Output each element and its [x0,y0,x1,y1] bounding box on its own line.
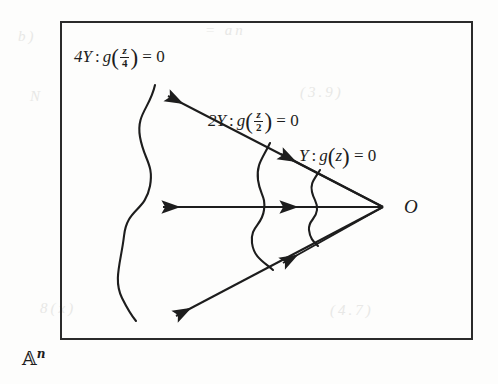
label-2y-fraction: z2 [254,109,264,133]
label-2y-function: g [237,111,246,130]
label-2y-close-paren: ) [264,109,272,134]
label-4y-function: g [103,47,112,66]
label-ambient-space: 𝔸n [22,347,45,369]
label-4y-denominator: 4 [120,57,130,70]
label-curve-4y: 4Y:g(z4) = 0 [74,46,165,70]
label-2y-variety: Y [217,111,226,130]
label-4y-fraction: z4 [120,45,130,69]
label-2y-equals: = 0 [276,111,298,130]
label-4y-close-paren: ) [130,45,138,70]
label-y-function: g [319,146,328,165]
label-curve-y: Y:g(z) = 0 [299,146,376,169]
label-y-colon: : [308,146,319,165]
label-y-argument: z [335,146,342,165]
ambient-space-symbol: 𝔸 [22,347,37,369]
label-curve-2y: 2Y:g(z2) = 0 [208,110,299,134]
label-y-close-paren: ) [342,144,350,169]
arrow-to-2y-bottom [283,207,383,263]
label-y-equals: = 0 [354,146,376,165]
label-4y-open-paren: ( [111,45,119,70]
label-y-open-paren: ( [328,144,336,169]
label-origin: O [404,196,418,218]
label-4y-equals: = 0 [142,47,164,66]
label-2y-coefficient: 2 [208,111,217,130]
label-4y-coefficient: 4 [74,47,83,66]
label-4y-numerator: z [120,45,128,57]
label-4y-variety: Y [83,47,92,66]
label-4y-colon: : [92,47,103,66]
label-2y-numerator: z [254,109,262,121]
label-2y-colon: : [226,111,237,130]
label-2y-open-paren: ( [245,109,253,134]
ambient-space-exponent: n [37,347,46,361]
label-2y-denominator: 2 [254,121,264,134]
curve-4y [118,85,155,321]
figure-canvas: b) = an N (3.9) 8(x) (4.7) [0,0,498,384]
